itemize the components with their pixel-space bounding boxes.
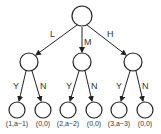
edge-label-n: N bbox=[40, 81, 47, 91]
edge-label-y: Y bbox=[13, 81, 19, 91]
edge-l-y bbox=[19, 71, 26, 101]
edge-root-l bbox=[36, 25, 77, 55]
payoff-label: (3,a−3) bbox=[108, 120, 130, 128]
edge-label-h: H bbox=[107, 29, 114, 39]
leaf-node bbox=[86, 102, 102, 118]
edge-h-y bbox=[121, 71, 130, 101]
payoff-label: (0,0) bbox=[138, 120, 152, 128]
node-l bbox=[20, 53, 38, 71]
node-m bbox=[73, 53, 91, 71]
node-h bbox=[124, 53, 142, 71]
root-node bbox=[72, 6, 92, 26]
edge-label-n: N bbox=[91, 81, 98, 91]
leaf-node bbox=[35, 102, 51, 118]
edge-label-l: L bbox=[50, 29, 55, 39]
leaf-node bbox=[60, 102, 76, 118]
edge-label-y: Y bbox=[66, 81, 72, 91]
payoff-label: (0,0) bbox=[36, 120, 50, 128]
leaf-node bbox=[9, 102, 25, 118]
payoff-label: (2,a−2) bbox=[57, 120, 79, 128]
payoff-label: (1,a−1) bbox=[6, 120, 28, 128]
leaf-node bbox=[111, 102, 127, 118]
leaf-node bbox=[137, 102, 153, 118]
edge-label-n: N bbox=[142, 81, 149, 91]
payoff-label: (0,0) bbox=[87, 120, 101, 128]
edge-label-m: M bbox=[84, 37, 92, 47]
game-tree-diagram: L M H Y N Y N Y N (1,a−1) (0,0) (2,a−2) … bbox=[0, 0, 161, 134]
edge-label-y: Y bbox=[116, 81, 122, 91]
